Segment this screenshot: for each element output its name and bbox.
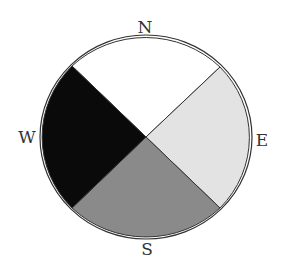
label-west: W <box>18 127 36 147</box>
label-south: S <box>141 239 153 259</box>
compass-circle <box>40 35 252 239</box>
compass-diagram: N W E S <box>0 0 286 271</box>
label-east: E <box>256 130 268 150</box>
label-north: N <box>138 17 153 37</box>
